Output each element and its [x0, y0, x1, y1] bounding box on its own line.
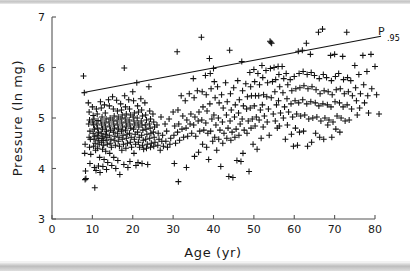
data-point — [324, 75, 330, 81]
data-point — [235, 78, 241, 84]
data-point — [125, 164, 131, 170]
x-tick-label-20: 20 — [126, 223, 140, 236]
data-point — [105, 159, 111, 165]
data-point — [86, 109, 92, 115]
y-tick-group — [52, 17, 56, 219]
data-point — [225, 125, 231, 131]
data-point — [113, 166, 119, 172]
data-point — [280, 90, 286, 96]
data-point — [162, 121, 168, 127]
data-point — [85, 100, 91, 106]
data-point — [258, 135, 264, 141]
data-point — [356, 72, 362, 78]
x-tick-label-80: 80 — [368, 223, 382, 236]
data-point — [261, 113, 267, 119]
data-point — [100, 163, 106, 169]
data-point — [192, 114, 198, 120]
data-point — [204, 108, 210, 114]
data-point — [214, 147, 220, 153]
data-point — [292, 125, 298, 131]
data-point — [135, 103, 141, 109]
data-point — [198, 34, 204, 40]
data-point — [206, 156, 212, 162]
data-point — [290, 143, 296, 149]
data-point-group — [80, 26, 382, 191]
data-point — [282, 136, 288, 142]
data-point — [259, 62, 265, 68]
data-point — [244, 106, 250, 112]
data-point — [121, 65, 127, 71]
data-point — [333, 126, 339, 132]
data-point — [188, 111, 194, 117]
data-point — [122, 93, 128, 99]
data-point — [301, 128, 307, 134]
data-point — [142, 100, 148, 106]
data-point — [190, 76, 196, 82]
data-point — [104, 167, 110, 173]
data-point — [118, 107, 124, 113]
data-point — [325, 122, 331, 128]
data-point — [325, 89, 331, 95]
data-point — [268, 95, 274, 101]
data-point — [87, 160, 93, 166]
data-point — [231, 85, 237, 91]
data-point — [316, 76, 322, 82]
data-point — [211, 79, 217, 85]
data-point — [217, 127, 223, 133]
data-point — [361, 82, 367, 88]
data-point — [218, 163, 224, 169]
data-point — [127, 139, 133, 145]
data-point — [376, 111, 382, 117]
data-point — [158, 114, 164, 120]
data-point — [243, 81, 249, 87]
data-point — [340, 53, 346, 59]
data-point — [114, 97, 120, 103]
data-point — [230, 175, 236, 181]
data-point — [291, 74, 297, 80]
data-point — [216, 100, 222, 106]
data-point — [143, 117, 149, 123]
data-point — [288, 131, 294, 137]
data-point — [332, 99, 338, 105]
data-point — [268, 39, 274, 45]
data-point — [148, 144, 154, 150]
y-tick-label-3: 3 — [38, 213, 45, 226]
data-point — [354, 112, 360, 118]
data-point — [286, 109, 292, 115]
data-point — [131, 98, 137, 104]
data-point — [309, 139, 315, 145]
data-point — [321, 88, 327, 94]
data-point — [369, 86, 375, 92]
data-point — [328, 52, 334, 58]
data-point — [306, 116, 312, 122]
data-point — [203, 92, 209, 98]
data-point — [118, 101, 124, 107]
data-point — [143, 145, 149, 151]
data-point — [220, 105, 226, 111]
x-tick-label-70: 70 — [328, 223, 342, 236]
data-point — [138, 96, 144, 102]
data-point — [271, 65, 277, 71]
data-point — [329, 92, 335, 98]
data-point — [296, 129, 302, 135]
data-point — [193, 133, 199, 139]
data-point — [315, 29, 321, 35]
data-point — [195, 118, 201, 124]
data-point — [238, 158, 244, 164]
data-point — [240, 150, 246, 156]
data-point — [240, 88, 246, 94]
data-point — [336, 71, 342, 77]
data-point — [186, 91, 192, 97]
data-point — [207, 101, 213, 107]
data-point — [227, 91, 233, 97]
data-point — [88, 151, 94, 157]
x-axis-title: Age (yr) — [184, 245, 241, 260]
data-point — [175, 179, 181, 185]
x-tick-label-30: 30 — [166, 223, 180, 236]
data-point — [95, 129, 101, 135]
data-point — [184, 117, 190, 123]
data-point — [279, 63, 285, 69]
data-point — [171, 160, 177, 166]
data-point — [278, 110, 284, 116]
data-point — [320, 26, 326, 32]
